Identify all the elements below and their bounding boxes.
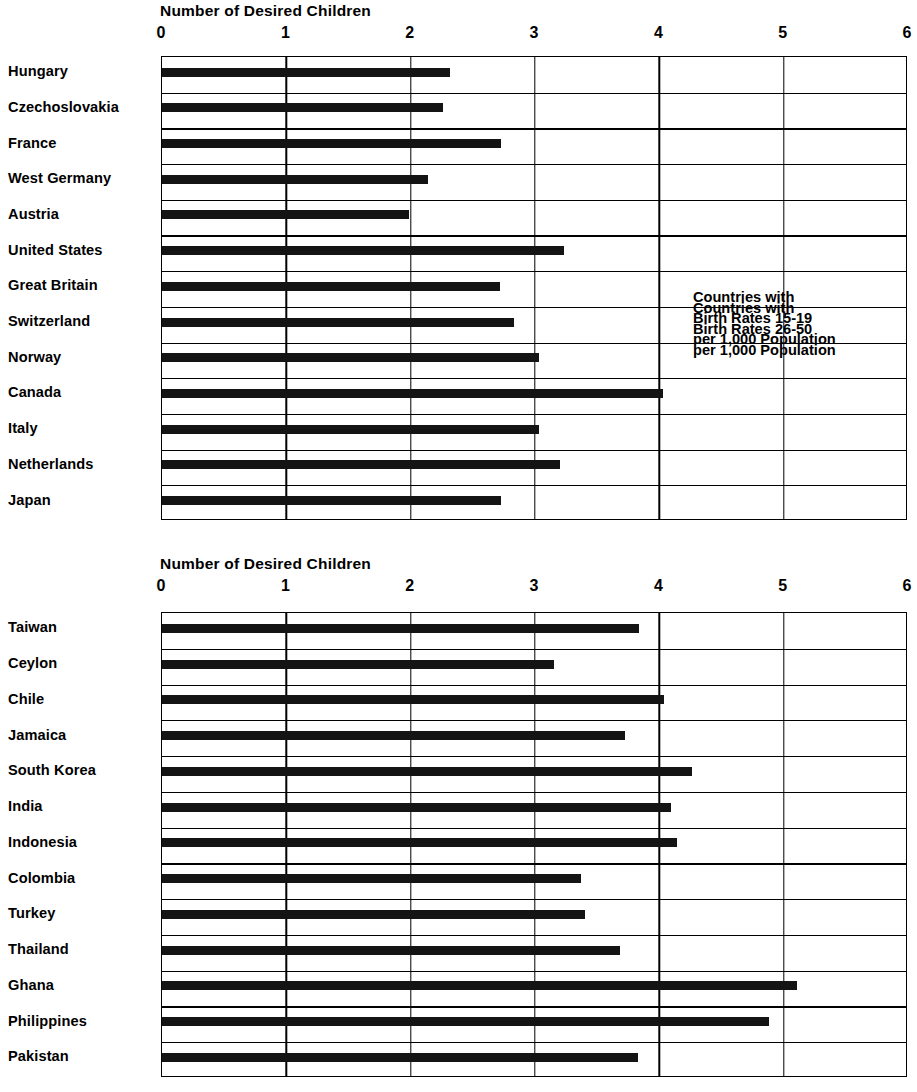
row-separator [162, 235, 906, 236]
annotation-line: Birth Rates 26-50 [693, 319, 836, 340]
category-label: Ceylon [8, 655, 57, 671]
category-label: Pakistan [8, 1048, 69, 1064]
row-separator [162, 200, 906, 201]
bar [162, 318, 514, 327]
row-separator [162, 720, 906, 721]
bar [162, 139, 501, 148]
bar [162, 660, 554, 669]
category-label: Italy [8, 420, 38, 436]
x-axis-ticks: 0123456 [0, 24, 917, 44]
category-label: Norway [8, 349, 61, 365]
panel-annotation: Countries withBirth Rates 26-50per 1,000… [693, 298, 836, 361]
x-tick-label: 2 [405, 577, 414, 595]
row-separator [162, 93, 906, 94]
bar [162, 425, 539, 434]
category-label: France [8, 135, 56, 151]
category-label: Chile [8, 691, 44, 707]
row-separator [162, 378, 906, 379]
row-separator [162, 756, 906, 757]
category-label: Jamaica [8, 727, 66, 743]
bar [162, 389, 663, 398]
row-separator [162, 649, 906, 650]
row-separator [162, 863, 906, 864]
row-separator [162, 899, 906, 900]
panel-title: Number of Desired Children [160, 555, 371, 573]
bar [162, 910, 585, 919]
category-label: Czechoslovakia [8, 99, 119, 115]
bar [162, 68, 450, 77]
category-label: Japan [8, 492, 51, 508]
category-label: South Korea [8, 762, 96, 778]
category-label: Turkey [8, 905, 55, 921]
category-label: Austria [8, 206, 59, 222]
category-label: Ghana [8, 977, 54, 993]
panel-title: Number of Desired Children [160, 2, 371, 20]
bar [162, 731, 625, 740]
bar [162, 496, 501, 505]
category-label: Netherlands [8, 456, 93, 472]
row-separator [162, 271, 906, 272]
row-separator [162, 685, 906, 686]
bar [162, 624, 639, 633]
row-separator [162, 164, 906, 165]
category-label: Canada [8, 384, 61, 400]
x-tick-label: 2 [405, 24, 414, 42]
row-separator [162, 935, 906, 936]
x-tick-label: 5 [778, 577, 787, 595]
bar [162, 103, 443, 112]
x-tick-label: 0 [157, 577, 166, 595]
bar [162, 246, 564, 255]
category-label: India [8, 798, 43, 814]
bar [162, 946, 620, 955]
bar [162, 838, 677, 847]
bar [162, 695, 664, 704]
x-tick-label: 1 [281, 24, 290, 42]
annotation-line: Countries with [693, 298, 836, 319]
category-label: Taiwan [8, 619, 57, 635]
bar [162, 210, 409, 219]
plot-area [161, 612, 907, 1077]
bar [162, 1053, 638, 1062]
category-label: Indonesia [8, 834, 77, 850]
row-separator [162, 485, 906, 486]
category-label: Colombia [8, 870, 75, 886]
category-label: United States [8, 242, 103, 258]
category-label: West Germany [8, 170, 111, 186]
category-label: Great Britain [8, 277, 98, 293]
row-separator [162, 414, 906, 415]
bar [162, 175, 428, 184]
category-label: Hungary [8, 63, 68, 79]
bar [162, 1017, 769, 1026]
row-separator [162, 971, 906, 972]
bar [162, 460, 560, 469]
row-separator [162, 450, 906, 451]
row-separator [162, 128, 906, 129]
row-separator [162, 1006, 906, 1007]
row-separator [162, 1042, 906, 1043]
x-tick-label: 4 [654, 577, 663, 595]
bar [162, 353, 539, 362]
x-tick-label: 3 [530, 24, 539, 42]
category-label: Philippines [8, 1013, 87, 1029]
x-tick-label: 6 [903, 577, 912, 595]
x-tick-label: 5 [778, 24, 787, 42]
chart-panel-birth-rates-15-19: Number of Desired Children 0123456 Hunga… [0, 0, 917, 525]
x-tick-label: 3 [530, 577, 539, 595]
x-tick-label: 6 [903, 24, 912, 42]
desired-children-figure: Number of Desired Children 0123456 Hunga… [0, 0, 917, 1092]
x-tick-label: 1 [281, 577, 290, 595]
bar [162, 767, 692, 776]
chart-panel-birth-rates-26-50: Number of Desired Children 0123456 Taiwa… [0, 553, 917, 1081]
x-axis-ticks: 0123456 [0, 577, 917, 597]
annotation-line: per 1,000 Population [693, 340, 836, 361]
category-label: Switzerland [8, 313, 90, 329]
bar [162, 874, 581, 883]
row-separator [162, 828, 906, 829]
bar [162, 981, 797, 990]
x-tick-label: 4 [654, 24, 663, 42]
x-tick-label: 0 [157, 24, 166, 42]
category-label: Thailand [8, 941, 69, 957]
row-separator [162, 792, 906, 793]
bar [162, 282, 500, 291]
bar [162, 803, 671, 812]
